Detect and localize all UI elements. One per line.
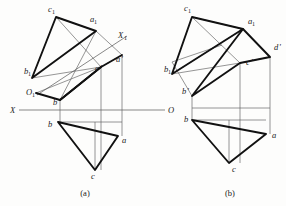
caption-a: (a) (80, 188, 90, 198)
label-c: c (91, 171, 95, 181)
label-b-prime-mark: ' (58, 97, 60, 107)
frontal-band-b (192, 29, 270, 96)
label-c-prime-mark: ' (100, 63, 102, 73)
label-b-b-prime: b (182, 86, 186, 96)
label-b-c-prime: c (246, 57, 250, 67)
labels-diagram-b: c 1 a 1 d ' c ' b 1 b ' b a c (164, 3, 281, 174)
diagram-b: c 1 a 1 d ' c ' b 1 b ' b a c (b) (164, 3, 281, 198)
label-b-a1-sub: 1 (252, 21, 255, 27)
label-o1-sub: 1 (32, 92, 35, 98)
frontal-band-a (36, 55, 122, 100)
label-o-axis: O (168, 105, 174, 115)
diagram-a: c 1 a 1 X 1 b 1 O 1 a ' c ' b ' X O b a (9, 4, 174, 198)
label-c-prime: c (95, 63, 99, 73)
label-c1-sub: 1 (52, 9, 55, 15)
label-a-prime-mark: ' (121, 54, 123, 64)
label-b-b1-sub: 1 (168, 69, 171, 75)
label-a-prime: a (116, 54, 120, 64)
label-b-a: a (272, 130, 276, 140)
label-b-prime: b (53, 97, 57, 107)
figure-canvas: c 1 a 1 X 1 b 1 O 1 a ' c ' b ' X O b a (0, 0, 286, 206)
labels-diagram-a: c 1 a 1 X 1 b 1 O 1 a ' c ' b ' X O b a (9, 4, 174, 181)
label-b-c1-sub: 1 (188, 8, 191, 14)
label-b-b-prime-mark: ' (187, 86, 189, 96)
label-b: b (48, 119, 52, 129)
label-b-d-prime-mark: ' (279, 42, 281, 52)
label-a1-sub: 1 (94, 19, 97, 25)
horizontal-triangle-a (58, 122, 118, 170)
label-x1-axis: X (117, 30, 124, 40)
label-b-b: b (184, 114, 188, 124)
caption-b: (b) (225, 188, 235, 198)
auxiliary-triangle-b (172, 17, 243, 74)
geometry-drawing: c 1 a 1 X 1 b 1 O 1 a ' c ' b ' X O b a (0, 0, 286, 206)
label-b-c: c (232, 164, 236, 174)
label-x1-sub: 1 (124, 35, 127, 41)
label-x-axis: X (9, 105, 16, 115)
label-a: a (122, 135, 126, 145)
label-b-c-prime-mark: ' (251, 57, 253, 67)
label-b1-sub: 1 (28, 71, 31, 77)
